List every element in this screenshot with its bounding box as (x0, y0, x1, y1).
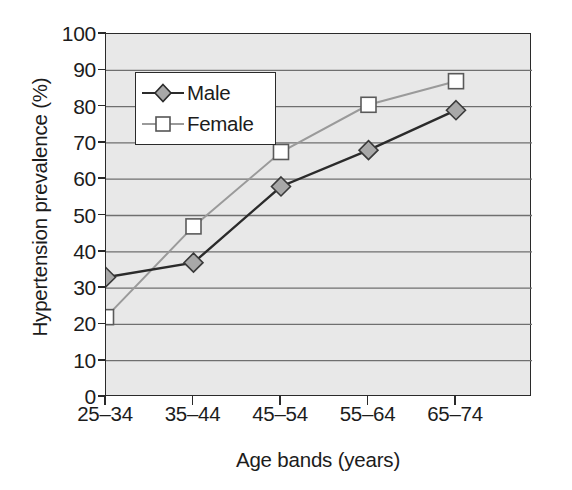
y-tick-label: 70 (44, 131, 96, 152)
female-series-marker-icon (140, 112, 186, 136)
chart-legend: Male Female (135, 72, 276, 145)
legend-item-female: Female (140, 109, 254, 139)
y-tick-label: 80 (44, 95, 96, 116)
x-axis-title: Age bands (years) (105, 448, 531, 472)
legend-item-male: Male (140, 78, 230, 108)
y-tick-label: 90 (44, 59, 96, 80)
chart-figure: Hypertension prevalence (%) Age bands (y… (0, 0, 572, 490)
x-tick-mark (192, 396, 194, 405)
y-tick-label: 10 (44, 349, 96, 370)
legend-label-female: Female (187, 112, 254, 136)
y-tick-label: 20 (44, 313, 96, 334)
y-tick-label: 30 (44, 277, 96, 298)
y-tick-label: 40 (44, 240, 96, 261)
y-tick-label: 50 (44, 204, 96, 225)
x-tick-mark (279, 396, 281, 405)
x-tick-mark (367, 396, 369, 405)
male-series-marker-icon (140, 81, 186, 105)
x-tick-mark (104, 396, 106, 405)
y-tick-label: 100 (44, 23, 96, 44)
x-tick-label: 65–74 (400, 404, 510, 425)
x-tick-mark (454, 396, 456, 405)
legend-label-male: Male (187, 81, 230, 105)
y-tick-label: 60 (44, 168, 96, 189)
